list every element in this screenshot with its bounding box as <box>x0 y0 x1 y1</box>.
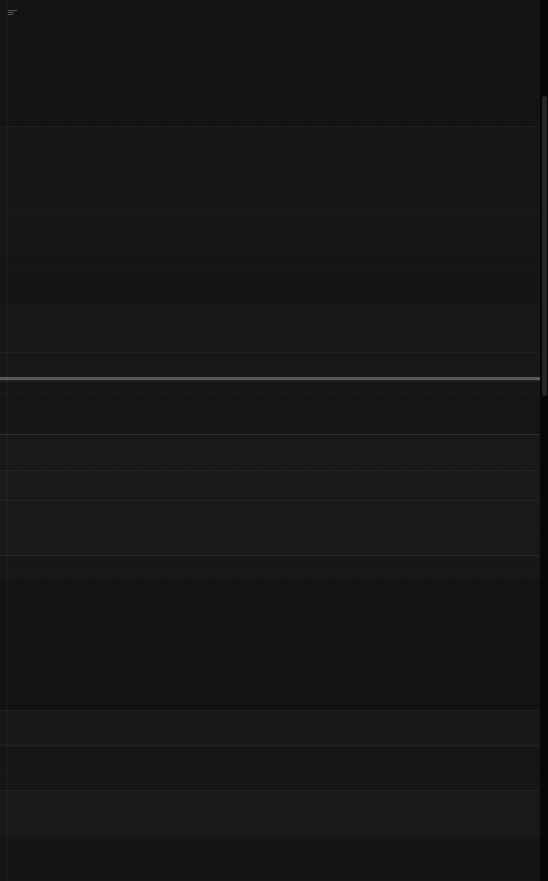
row-divider-1 <box>0 214 548 215</box>
list-row-7[interactable] <box>8 746 540 770</box>
pre-separator-band <box>0 305 548 377</box>
header-band <box>0 0 548 126</box>
dense-text-band <box>0 255 548 305</box>
list-row-5[interactable] <box>8 532 540 554</box>
row-divider-16 <box>0 862 548 863</box>
row-divider-2 <box>0 268 548 269</box>
row-divider-9 <box>0 555 548 556</box>
list-row-1[interactable] <box>8 380 540 433</box>
list-row-8[interactable] <box>8 772 540 789</box>
footer-band <box>0 835 548 881</box>
list-row-4[interactable] <box>8 501 540 530</box>
scrollbar-thumb[interactable] <box>542 96 547 396</box>
scrollbar-track[interactable] <box>540 0 548 881</box>
screen-root <box>0 0 548 881</box>
list-row-6[interactable] <box>8 711 540 744</box>
row-divider-10 <box>0 574 548 575</box>
row-divider-3 <box>0 352 548 353</box>
upper-content-band <box>0 126 548 255</box>
list-row-9[interactable] <box>8 791 540 834</box>
list-row-2[interactable] <box>8 435 540 469</box>
header-divider <box>0 126 548 127</box>
open-band <box>0 580 548 710</box>
list-band-e <box>0 555 548 580</box>
row-divider-15 <box>0 835 548 836</box>
list-row-3[interactable] <box>8 471 540 499</box>
menu-icon[interactable] <box>8 10 17 16</box>
